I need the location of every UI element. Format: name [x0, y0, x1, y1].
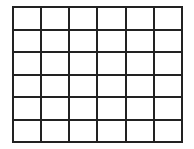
grid-row: [13, 7, 182, 30]
grid-cell: [13, 30, 41, 53]
grid-cell: [126, 97, 154, 120]
grid-cell: [126, 30, 154, 53]
grid-cell: [13, 120, 41, 143]
empty-grid: [12, 6, 183, 143]
grid-cell: [154, 52, 182, 75]
grid-row: [13, 52, 182, 75]
grid-cell: [69, 120, 97, 143]
grid-cell: [13, 97, 41, 120]
grid-cell: [154, 30, 182, 53]
grid-cell: [154, 7, 182, 30]
grid-cell: [41, 120, 69, 143]
grid-cell: [97, 30, 125, 53]
grid-cell: [126, 52, 154, 75]
grid-cell: [126, 120, 154, 143]
grid-cell: [41, 30, 69, 53]
grid-cell: [69, 75, 97, 98]
grid-cell: [97, 120, 125, 143]
grid-row: [13, 97, 182, 120]
grid-cell: [41, 7, 69, 30]
grid-cell: [97, 52, 125, 75]
grid-cell: [126, 75, 154, 98]
grid-cell: [13, 7, 41, 30]
grid-row: [13, 120, 182, 143]
grid-cell: [69, 52, 97, 75]
grid-cell: [97, 75, 125, 98]
grid-cell: [126, 7, 154, 30]
grid-row: [13, 30, 182, 53]
grid-cell: [154, 75, 182, 98]
grid-cell: [13, 75, 41, 98]
canvas: [0, 0, 194, 149]
grid-cell: [97, 7, 125, 30]
grid-cell: [13, 52, 41, 75]
grid-cell: [41, 97, 69, 120]
grid-cell: [41, 75, 69, 98]
grid-cell: [97, 97, 125, 120]
grid-cell: [154, 120, 182, 143]
grid-cell: [69, 97, 97, 120]
grid-cell: [154, 97, 182, 120]
grid-cell: [69, 30, 97, 53]
grid-row: [13, 75, 182, 98]
grid-cell: [69, 7, 97, 30]
grid-cell: [41, 52, 69, 75]
